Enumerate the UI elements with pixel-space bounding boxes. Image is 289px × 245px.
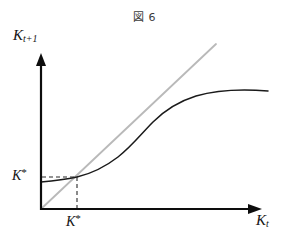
x-axis-label-base: K (256, 212, 266, 228)
x-equilibrium-base: K (66, 214, 75, 229)
x-axis-label-subscript: t (266, 218, 269, 229)
y-axis-label-subscript: t+1 (23, 33, 37, 44)
y-axis-label-base: K (13, 27, 23, 43)
y-equilibrium-star: * (21, 166, 27, 178)
x-axis-equilibrium-label: K* (66, 212, 81, 230)
y-axis-label: Kt+1 (13, 27, 37, 44)
y-axis-arrowhead (36, 53, 46, 66)
figure-container: 図 6 Kt+1 Kt K* K* (0, 0, 289, 245)
x-axis-label: Kt (256, 212, 269, 229)
y-axis-equilibrium-label: K* (12, 166, 27, 184)
x-equilibrium-star: * (75, 212, 81, 224)
diagonal-45-line (41, 44, 216, 209)
transition-curve (41, 90, 268, 182)
y-equilibrium-base: K (12, 168, 21, 183)
plot-area (0, 0, 289, 245)
